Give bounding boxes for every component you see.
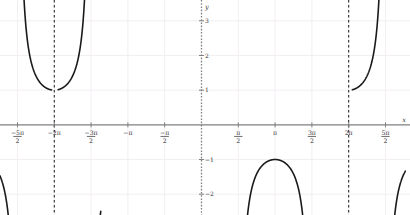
x-tick-label-numerator: −5π [11, 129, 24, 136]
y-tick-label: 2 [205, 52, 209, 59]
chart-canvas: −5π2−2π−3π2−π−π2π2π3π22π5π2−2−1123xy [0, 0, 410, 215]
y-tick-label: −2 [205, 190, 214, 197]
x-tick-label-denominator: 2 [16, 137, 20, 144]
secant-function-plot: −5π2−2π−3π2−π−π2π2π3π22π5π2−2−1123xy [0, 0, 410, 215]
y-tick-label: 3 [205, 17, 209, 24]
x-tick-label-denominator: 2 [236, 137, 240, 144]
y-tick-label: −1 [205, 156, 214, 163]
x-tick-label-denominator: 2 [384, 137, 388, 144]
x-tick-label-numerator: 3π [308, 129, 316, 136]
x-tick-label-numerator: −3π [84, 129, 97, 136]
x-tick-label-numerator: 5π [381, 129, 389, 136]
x-tick-label: −2π [48, 129, 61, 136]
x-tick-label-numerator: π [236, 129, 240, 136]
x-axis-label: x [402, 116, 406, 124]
x-tick-label-denominator: 2 [310, 137, 314, 144]
x-tick-label: π [273, 129, 277, 136]
x-tick-label-denominator: 2 [89, 137, 93, 144]
x-tick-label-denominator: 2 [163, 137, 167, 144]
y-axis-label: y [204, 3, 209, 11]
y-tick-label: 1 [205, 86, 209, 93]
x-tick-label: −π [123, 129, 132, 136]
x-tick-label-numerator: −π [160, 129, 169, 136]
x-tick-label: 2π [345, 129, 353, 136]
